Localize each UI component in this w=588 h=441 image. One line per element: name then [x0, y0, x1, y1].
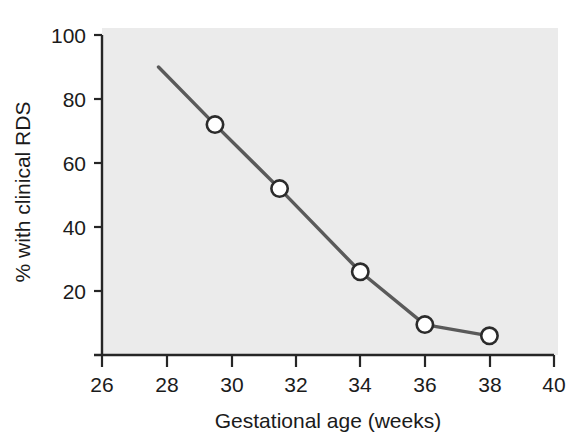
- chart-figure: 100 80 60 40 20 26 28 30 32 34 36 38 40: [0, 0, 588, 441]
- x-tick-label-32: 32: [284, 373, 307, 396]
- y-tick-label-40: 40: [63, 216, 86, 239]
- data-point-marker: [417, 316, 433, 332]
- y-tick-label-100: 100: [51, 24, 86, 47]
- y-tick-label-80: 80: [63, 88, 86, 111]
- x-tick-label-30: 30: [220, 373, 243, 396]
- data-point-marker: [207, 116, 223, 132]
- y-tick-label-60: 60: [63, 152, 86, 175]
- y-axis-title: % with clinical RDS: [11, 102, 34, 283]
- y-tick-label-20: 20: [63, 280, 86, 303]
- x-tick-label-40: 40: [542, 373, 565, 396]
- x-tick-label-38: 38: [478, 373, 501, 396]
- x-tick-label-36: 36: [413, 373, 436, 396]
- data-point-marker: [352, 264, 368, 280]
- x-axis-ticks: [102, 355, 554, 367]
- x-axis-title: Gestational age (weeks): [215, 409, 441, 432]
- data-point-marker: [481, 328, 497, 344]
- y-axis-tick-labels: 100 80 60 40 20: [51, 24, 86, 303]
- data-point-marker: [271, 180, 287, 196]
- x-tick-label-28: 28: [155, 373, 178, 396]
- line-chart: 100 80 60 40 20 26 28 30 32 34 36 38 40: [0, 0, 588, 441]
- x-tick-label-34: 34: [348, 373, 372, 396]
- x-axis-tick-labels: 26 28 30 32 34 36 38 40: [90, 373, 565, 396]
- x-tick-label-26: 26: [90, 373, 113, 396]
